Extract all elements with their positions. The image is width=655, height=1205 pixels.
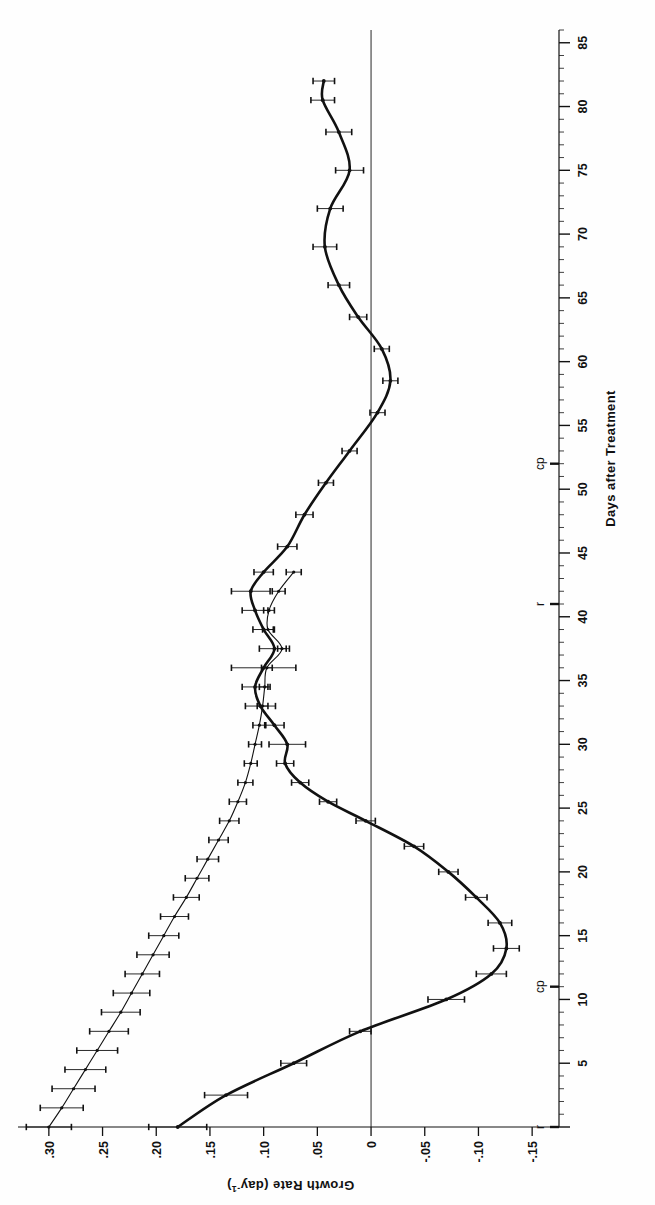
y-tick-label-5: .05 [311, 1141, 325, 1158]
x-tick-label-3: 15 [576, 929, 590, 943]
data-point [498, 921, 502, 925]
data-point [60, 1106, 63, 1109]
data-point [119, 1011, 122, 1014]
x-tick-label-8: 40 [576, 610, 590, 624]
data-point [285, 742, 289, 746]
x-tick-label-13: 65 [576, 291, 590, 305]
data-point [292, 571, 295, 574]
y-tick-label-8: -.10 [472, 1141, 486, 1163]
data-point [217, 838, 220, 841]
y-tick-label-3: .15 [204, 1141, 218, 1158]
data-point [412, 844, 416, 848]
y-tick-label-6: 0 [365, 1141, 379, 1148]
data-point [195, 877, 198, 880]
data-point [388, 379, 392, 383]
annotation-cp-day52: cp [533, 457, 547, 470]
data-point [244, 781, 247, 784]
data-point [303, 513, 307, 517]
data-point [259, 704, 263, 708]
data-point [84, 1068, 87, 1071]
data-point [162, 934, 165, 937]
data-point [321, 98, 325, 102]
y-tick-label-1: .25 [97, 1141, 111, 1158]
data-point [474, 895, 478, 899]
data-point [130, 991, 133, 994]
data-point [326, 800, 330, 804]
x-tick-label-11: 55 [576, 418, 590, 432]
data-point [258, 724, 261, 727]
series-thin-line-series [26, 569, 301, 1130]
x-tick-label-5: 25 [576, 801, 590, 815]
data-point [364, 819, 368, 823]
data-point [504, 947, 508, 951]
data-point [224, 1093, 228, 1097]
data-point [173, 915, 176, 918]
data-point [328, 207, 332, 211]
data-point [298, 781, 302, 785]
annotation-r-day41: r [533, 602, 547, 606]
data-point [228, 819, 231, 822]
data-point [262, 628, 266, 632]
x-tick-label-10: 50 [576, 482, 590, 496]
data-point [358, 1029, 362, 1033]
data-point [206, 858, 209, 861]
data-point [322, 79, 326, 83]
data-point [262, 666, 266, 670]
x-axis-title: Days after Treatment [603, 390, 618, 527]
x-tick-label-15: 75 [576, 163, 590, 177]
data-point [249, 762, 252, 765]
data-point [356, 315, 360, 319]
data-point [323, 245, 327, 249]
data-point [380, 347, 384, 351]
data-point [324, 481, 328, 485]
data-point [444, 998, 448, 1002]
data-point [47, 1125, 50, 1128]
series-curve-thin [49, 572, 294, 1127]
y-tick-label-9: -.15 [526, 1141, 540, 1163]
data-point [272, 723, 276, 727]
data-point [141, 972, 144, 975]
growth-rate-chart: .30.25.20.15.10.050-.05-.10-.15510152025… [0, 0, 655, 1205]
data-point [292, 1061, 296, 1065]
chart-canvas: .30.25.20.15.10.050-.05-.10-.15510152025… [0, 0, 655, 1205]
data-point [376, 411, 380, 415]
data-point [337, 283, 341, 287]
data-point [489, 972, 493, 976]
x-tick-label-9: 45 [576, 546, 590, 560]
x-tick-label-7: 35 [576, 674, 590, 688]
x-tick-label-4: 20 [576, 865, 590, 879]
x-tick-label-6: 30 [576, 737, 590, 751]
data-point [337, 130, 341, 134]
y-axis-title: Growth Rate (day-1) [227, 1178, 355, 1194]
data-point [348, 168, 352, 172]
data-point [151, 953, 154, 956]
data-point [277, 590, 280, 593]
data-point [262, 570, 266, 574]
x-tick-label-17: 85 [576, 36, 590, 50]
y-tick-label-4: .10 [258, 1141, 272, 1158]
y-tick-label-7: -.05 [419, 1141, 433, 1163]
data-point [272, 647, 276, 651]
data-point [249, 589, 253, 593]
x-tick-label-14: 70 [576, 227, 590, 241]
x-tick-label-2: 10 [576, 992, 590, 1006]
data-point [236, 800, 239, 803]
data-point [96, 1049, 99, 1052]
y-tick-label-2: .20 [150, 1141, 164, 1158]
data-point [107, 1030, 110, 1033]
data-point [283, 762, 287, 766]
x-tick-label-16: 80 [576, 100, 590, 114]
data-point [72, 1087, 75, 1090]
data-point [253, 685, 257, 689]
y-tick-label-0: .30 [43, 1141, 57, 1158]
data-point [176, 1125, 180, 1129]
data-point [348, 449, 352, 453]
data-point [253, 608, 257, 612]
x-tick-label-12: 60 [576, 355, 590, 369]
data-point [253, 743, 256, 746]
data-point [185, 896, 188, 899]
data-point [446, 870, 450, 874]
series-curve-thick [178, 81, 507, 1127]
annotation-r-day0: r [533, 1125, 547, 1129]
annotation-cp-day11: cp [533, 980, 547, 993]
